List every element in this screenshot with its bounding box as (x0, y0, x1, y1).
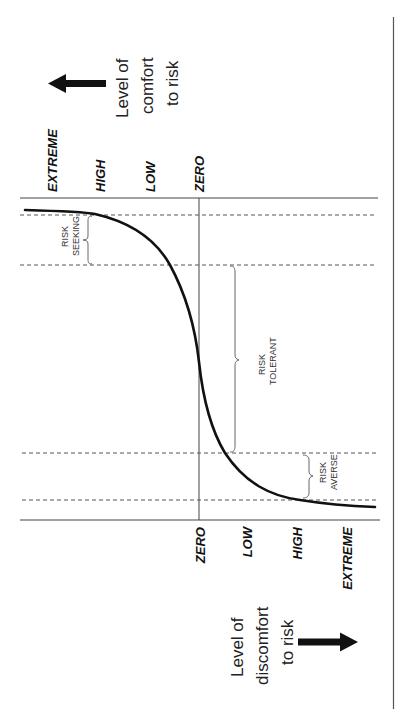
zone-seeking-line-2: SEEKING (71, 216, 81, 256)
comfort-label-high: HIGH (93, 159, 108, 192)
discomfort-label-zero: ZERO (193, 527, 208, 564)
discomfort-label-high: HIGH (290, 526, 305, 559)
zone-tolerant-line-1: RISK (257, 354, 267, 375)
discomfort-caption-line-3: to risk (278, 619, 297, 665)
discomfort-arrow-icon (298, 633, 358, 652)
zone-label-risk-seeking: RISK SEEKING (60, 216, 81, 256)
zone-tolerant-line-2: TOLERANT (268, 337, 278, 385)
zone-seeking-line-1: RISK (60, 226, 70, 247)
comfort-caption-line-1: Level of (113, 58, 132, 118)
risk-comfort-diagram: Level of comfort to risk EXTREME HIGH LO… (0, 0, 400, 709)
comfort-label-low: LOW (143, 160, 158, 192)
zone-averse-line-2: AVERSE (329, 454, 339, 490)
comfort-caption-line-3: to risk (163, 60, 182, 106)
discomfort-label-extreme: EXTREME (340, 527, 355, 590)
brace-risk-seeking (83, 216, 92, 264)
zone-averse-line-1: RISK (318, 462, 328, 483)
comfort-caption-line-2: comfort (138, 57, 157, 114)
zone-label-risk-tolerant: RISK TOLERANT (257, 337, 278, 385)
brace-risk-averse (303, 455, 313, 498)
discomfort-label-low: LOW (240, 525, 255, 557)
comfort-label-zero: ZERO (192, 156, 207, 193)
discomfort-caption-line-1: Level of (228, 617, 247, 677)
brace-risk-tolerant (230, 266, 239, 452)
comfort-label-extreme: EXTREME (45, 129, 60, 192)
discomfort-caption-line-2: discomfort (253, 606, 272, 685)
zone-label-risk-averse: RISK AVERSE (318, 454, 339, 490)
comfort-arrow-icon (48, 74, 106, 93)
discomfort-caption: Level of discomfort to risk (228, 606, 297, 685)
comfort-caption: Level of comfort to risk (113, 57, 182, 118)
